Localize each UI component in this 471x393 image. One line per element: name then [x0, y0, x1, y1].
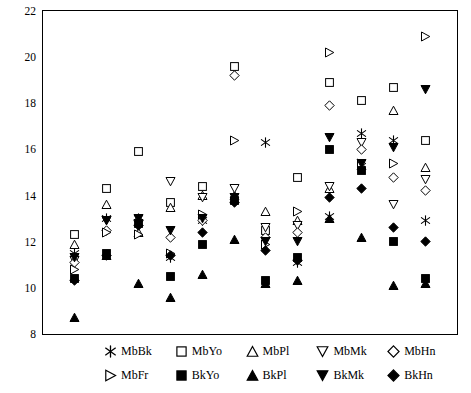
data-point [420, 185, 431, 196]
data-point [260, 225, 271, 236]
data-point [165, 292, 176, 303]
data-point [324, 211, 335, 222]
data-point [324, 47, 335, 58]
data-point [260, 278, 271, 289]
data-point [133, 215, 144, 226]
data-point [292, 257, 303, 268]
data-point [356, 232, 367, 243]
data-point [292, 220, 303, 231]
data-point [420, 174, 431, 185]
data-point [388, 105, 399, 116]
data-point [69, 229, 80, 240]
triangle-down-marker-icon [316, 345, 329, 358]
plot-frame [42, 10, 458, 335]
legend-item-mbhn: MbHn [387, 344, 458, 359]
data-point [229, 61, 240, 72]
legend-label: MbHn [404, 344, 435, 359]
data-point [324, 77, 335, 88]
data-point [356, 144, 367, 155]
legend-item-bkyo: BkYo [175, 368, 246, 383]
legend-label: MbPl [263, 344, 290, 359]
data-point [101, 225, 112, 236]
square-marker-icon [175, 369, 188, 382]
data-point [197, 209, 208, 220]
data-point [197, 181, 208, 192]
data-point [420, 273, 431, 284]
y-tick-label: 18 [25, 97, 37, 109]
diamond-marker-icon [387, 345, 400, 358]
data-point [101, 250, 112, 261]
data-point [229, 195, 240, 206]
data-point [292, 227, 303, 238]
data-point [356, 158, 367, 169]
y-tick-label: 14 [25, 190, 37, 202]
data-point [420, 31, 431, 42]
data-point [260, 232, 271, 243]
data-point [324, 213, 335, 224]
y-tick-label: 8 [30, 328, 36, 340]
data-point [197, 213, 208, 224]
legend-row: MbBkMbYoMbPlMbMkMbHn [42, 340, 458, 362]
legend-item-mbpl: MbPl [246, 344, 317, 359]
data-point [260, 239, 271, 250]
data-point [133, 218, 144, 229]
data-point [260, 245, 271, 256]
data-point [101, 183, 112, 194]
data-point [388, 142, 399, 153]
legend-item-bkhn: BkHn [387, 368, 458, 383]
data-point [69, 248, 80, 259]
legend-label: MbMk [333, 344, 366, 359]
data-point [197, 269, 208, 280]
data-point [165, 225, 176, 236]
data-point [324, 132, 335, 143]
data-point [420, 135, 431, 146]
data-point [165, 248, 176, 259]
legend-item-mbfr: MbFr [104, 368, 175, 383]
data-point [69, 312, 80, 323]
y-tick-label: 10 [25, 282, 37, 294]
data-point [356, 158, 367, 169]
data-point [420, 236, 431, 247]
data-point [420, 278, 431, 289]
data-point [101, 215, 112, 226]
data-point [229, 234, 240, 245]
data-point [133, 213, 144, 224]
data-point [69, 264, 80, 275]
legend-item-mbbk: MbBk [104, 344, 175, 359]
scatter-chart: 810121416182022 MbBkMbYoMbPlMbMkMbHnMbFr… [0, 0, 471, 393]
data-point [324, 181, 335, 192]
asterisk-marker-icon [104, 345, 117, 358]
legend-label: BkMk [333, 368, 364, 383]
triangle-down-marker-icon [316, 369, 329, 382]
data-point [229, 70, 240, 81]
data-point [69, 239, 80, 250]
data-point [133, 227, 144, 238]
data-point [229, 190, 240, 201]
data-point [229, 192, 240, 203]
data-point [324, 183, 335, 194]
data-point [356, 160, 367, 171]
legend-item-mbmk: MbMk [316, 344, 387, 359]
legend-label: MbBk [121, 344, 152, 359]
data-point [165, 176, 176, 187]
data-point [292, 236, 303, 247]
y-tick-label: 16 [25, 143, 37, 155]
y-tick-label: 22 [25, 5, 37, 17]
data-point [292, 275, 303, 286]
data-point [197, 190, 208, 201]
data-point [388, 280, 399, 291]
diamond-marker-icon [387, 369, 400, 382]
data-point [292, 206, 303, 217]
data-point [69, 252, 80, 263]
data-point [165, 250, 176, 261]
data-point [133, 278, 144, 289]
data-point [356, 95, 367, 106]
y-tick-label: 12 [25, 236, 37, 248]
data-point [69, 273, 80, 284]
data-point [420, 162, 431, 173]
data-point [388, 158, 399, 169]
data-point [356, 137, 367, 148]
data-point [133, 220, 144, 231]
data-point [165, 232, 176, 243]
data-point [69, 257, 80, 268]
